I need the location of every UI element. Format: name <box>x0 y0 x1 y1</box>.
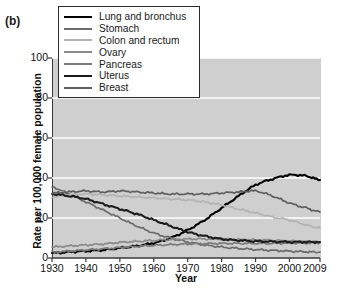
legend-item-label: Stomach <box>99 23 139 34</box>
legend-item: Ovary <box>64 46 195 58</box>
legend-swatch-line-icon <box>64 63 92 65</box>
legend-item: Pancreas <box>64 58 195 70</box>
legend-item-label: Ovary <box>99 47 126 58</box>
y-tick-label: 40 <box>4 171 48 183</box>
legend-swatch-line-icon <box>64 39 92 41</box>
y-tick-label: 80 <box>4 91 48 103</box>
legend-item: Stomach <box>64 23 195 35</box>
y-tick-label: 100 <box>4 51 48 63</box>
panel-label: (b) <box>5 14 20 28</box>
legend-item: Breast <box>64 82 195 94</box>
x-axis-title: Year <box>52 272 320 284</box>
y-tick-label: 60 <box>4 131 48 143</box>
y-axis-tick-labels: 020406080100 <box>0 58 48 258</box>
legend-item-label: Uterus <box>99 70 129 81</box>
legend-item: Lung and bronchus <box>64 11 195 23</box>
legend-swatch-line-icon <box>64 51 92 53</box>
legend-swatch-line-icon <box>64 75 92 77</box>
legend-item: Colon and rectum <box>64 35 195 47</box>
figure-panel-b: (b) Rate per 100,000 female population 0… <box>0 0 337 289</box>
y-tick-label: 20 <box>4 211 48 223</box>
legend-item-label: Colon and rectum <box>99 35 179 46</box>
legend-swatch-line-icon <box>64 28 92 30</box>
chart-legend: Lung and bronchusStomachColon and rectum… <box>58 6 200 98</box>
legend-item: Uterus <box>64 70 195 82</box>
legend-swatch-line-icon <box>64 16 92 18</box>
legend-swatch-line-icon <box>64 87 92 89</box>
legend-item-label: Breast <box>99 82 128 93</box>
legend-item-label: Pancreas <box>99 59 142 70</box>
legend-item-label: Lung and bronchus <box>99 11 186 22</box>
